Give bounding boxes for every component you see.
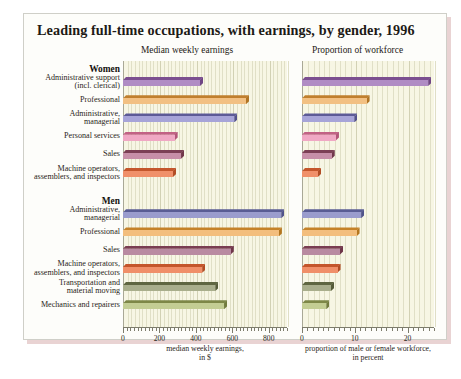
axis-tick xyxy=(134,328,135,331)
axis-tick xyxy=(323,328,324,331)
axis-tick xyxy=(307,328,308,331)
bar-front-face xyxy=(123,80,200,86)
bar-earnings xyxy=(123,264,205,273)
axis-tick xyxy=(156,328,157,331)
gridline xyxy=(372,61,373,327)
gridline xyxy=(403,61,404,327)
axis-tick-label: 0 xyxy=(287,334,317,343)
row-label: Machine operators,assemblers, and inspec… xyxy=(24,165,120,182)
gridline xyxy=(409,61,410,327)
bar-front-face xyxy=(302,116,354,122)
bar-earnings xyxy=(123,227,282,236)
bar-earnings xyxy=(123,77,203,86)
row-label: Administrative support(incl. clerical) xyxy=(24,74,120,91)
axis-tick-label: 600 xyxy=(217,334,247,343)
axis-tick xyxy=(185,328,186,331)
bar-earnings xyxy=(123,150,184,159)
bar-front-face xyxy=(302,171,318,177)
gridline xyxy=(377,61,378,327)
axis-tick xyxy=(192,328,193,331)
axis-title-workforce: proportion of male or female workforce,i… xyxy=(258,344,461,363)
bar-front-face xyxy=(123,153,181,159)
bar-earnings xyxy=(123,95,249,104)
bar-front-face xyxy=(302,267,338,273)
bar-earnings xyxy=(123,168,176,177)
axis-tick xyxy=(418,328,419,331)
axis-tick xyxy=(302,328,303,333)
axis-tick xyxy=(127,328,128,331)
gridline xyxy=(273,61,274,327)
axis-tick xyxy=(423,328,424,331)
axis-tick xyxy=(280,328,281,331)
gridline xyxy=(288,61,289,327)
axis-tick xyxy=(355,328,356,333)
axis-tick xyxy=(167,328,168,331)
axis-tick xyxy=(236,328,237,331)
gridline xyxy=(424,61,425,327)
bar-front-face xyxy=(302,80,428,86)
gridline xyxy=(252,61,253,327)
axis-tick xyxy=(397,328,398,331)
axis-tick xyxy=(145,328,146,331)
axis-tick xyxy=(339,328,340,331)
bar-workforce xyxy=(302,300,329,309)
axis-tick xyxy=(181,328,182,331)
axis-tick xyxy=(283,328,284,331)
row-label: Transportation andmaterial moving xyxy=(24,279,120,296)
screenshot-root: Leading full-time occupations, with earn… xyxy=(0,0,461,379)
bar-earnings xyxy=(123,282,218,291)
axis-tick xyxy=(265,328,266,331)
axis-tick xyxy=(261,328,262,331)
axis-tick-label: 20 xyxy=(393,334,423,343)
gridline xyxy=(262,61,263,327)
axis-tick xyxy=(381,328,382,331)
axis-tick-label: 400 xyxy=(181,334,211,343)
axis-tick-label: 800 xyxy=(254,334,284,343)
axis-tick xyxy=(402,328,403,331)
gridline xyxy=(435,61,436,327)
bar-workforce xyxy=(302,209,364,218)
bar-front-face xyxy=(123,267,202,273)
axis-tick xyxy=(189,328,190,331)
axis-tick xyxy=(272,328,273,331)
bar-front-face xyxy=(123,212,281,218)
bar-workforce xyxy=(302,77,431,86)
axis-tick xyxy=(350,328,351,331)
row-label: Administrative,managerial xyxy=(24,206,120,223)
bar-earnings xyxy=(123,246,234,255)
axis-tick xyxy=(218,328,219,331)
row-label: Mechanics and repairers xyxy=(24,301,120,310)
axis-tick xyxy=(254,328,255,331)
axis-tick xyxy=(276,328,277,331)
bar-front-face xyxy=(123,230,279,236)
row-label: Sales xyxy=(24,150,120,159)
bar-front-face xyxy=(302,303,326,309)
axis-tick xyxy=(251,328,252,331)
axis-tick xyxy=(344,328,345,331)
axis-tick xyxy=(159,328,160,333)
axis-tick xyxy=(365,328,366,331)
bar-front-face xyxy=(123,249,231,255)
axis-tick xyxy=(429,328,430,331)
gridline xyxy=(277,61,278,327)
x-axis-workforce xyxy=(302,327,434,328)
bar-workforce xyxy=(302,168,321,177)
axis-tick xyxy=(386,328,387,331)
gridline xyxy=(419,61,420,327)
bar-earnings xyxy=(123,209,284,218)
axis-tick xyxy=(210,328,211,331)
row-label: Professional xyxy=(24,96,120,105)
gridline xyxy=(284,61,285,327)
axis-tick xyxy=(141,328,142,331)
axis-tick xyxy=(258,328,259,331)
axis-tick xyxy=(130,328,131,331)
bar-workforce xyxy=(302,113,357,122)
chart-card: Leading full-time occupations, with earn… xyxy=(23,13,447,340)
axis-tick xyxy=(240,328,241,331)
axis-tick xyxy=(243,328,244,331)
axis-tick xyxy=(152,328,153,331)
gridline xyxy=(414,61,415,327)
gridline xyxy=(255,61,256,327)
axis-tick-label: 0 xyxy=(108,334,138,343)
axis-tick xyxy=(138,328,139,331)
